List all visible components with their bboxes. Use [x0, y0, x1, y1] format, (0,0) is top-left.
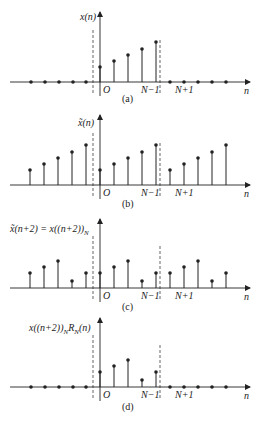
- sample-dot: [98, 271, 102, 275]
- sample-dot: [126, 358, 130, 362]
- sample-dot: [42, 265, 46, 269]
- zero-sample-dot: [168, 80, 172, 84]
- origin-label: O: [103, 187, 110, 198]
- sample-dot: [168, 168, 172, 172]
- stem-group: [28, 259, 228, 288]
- sample-dot: [56, 156, 60, 160]
- zero-sample-dot: [29, 80, 33, 84]
- y-label: x(n): [79, 11, 97, 23]
- zero-sample-dot: [210, 385, 214, 389]
- n-axis-label: n: [244, 85, 249, 96]
- sample-dot: [28, 271, 32, 275]
- zero-sample-dot: [224, 385, 228, 389]
- sequence-figure: x(n) O N−1 N+1 n (a) x̃(n) O N−1 N+1 n (…: [0, 0, 260, 427]
- sample-dot: [224, 271, 228, 275]
- sample-dot: [112, 162, 116, 166]
- sample-dot: [210, 279, 214, 283]
- n-minus-1-label: N−1: [140, 290, 159, 301]
- n-axis-label: n: [244, 188, 249, 199]
- zero-sample-dot: [196, 80, 200, 84]
- origin-label: O: [103, 84, 110, 95]
- sample-dot: [70, 150, 74, 154]
- n-plus-1-label: N+1: [174, 290, 193, 301]
- zero-sample-dot: [57, 385, 61, 389]
- sample-dot: [112, 59, 116, 63]
- n-plus-1-label: N+1: [174, 84, 193, 95]
- zero-sample-dot: [43, 80, 47, 84]
- sample-dot: [126, 53, 130, 57]
- sample-dot: [112, 364, 116, 368]
- sample-dot: [42, 162, 46, 166]
- zero-sample-dot: [29, 385, 33, 389]
- panel-a: x(n) O N−1 N+1 n (a): [10, 11, 250, 105]
- sample-dot: [154, 370, 158, 374]
- panel-b: x̃(n) O N−1 N+1 n (b): [10, 115, 250, 210]
- stem-group: [28, 143, 228, 185]
- zero-sample-dot: [57, 80, 61, 84]
- sample-dot: [56, 259, 60, 263]
- sample-dot: [196, 259, 200, 263]
- zero-sample-dot: [84, 80, 88, 84]
- sample-dot: [210, 150, 214, 154]
- zero-sample-dot: [210, 80, 214, 84]
- sample-dot: [182, 265, 186, 269]
- zero-sample-dot: [71, 385, 75, 389]
- zero-sample-dot: [43, 385, 47, 389]
- sample-dot: [84, 271, 88, 275]
- zero-sample-dot: [196, 385, 200, 389]
- sample-dot: [98, 65, 102, 69]
- y-label: x̃(n+2) = x((n+2))N: [9, 223, 89, 237]
- n-axis-label: n: [244, 291, 249, 302]
- n-minus-1-label: N−1: [140, 187, 159, 198]
- n-plus-1-label: N+1: [174, 389, 193, 400]
- n-minus-1-label: N−1: [140, 389, 159, 400]
- stem-group: [29, 358, 228, 389]
- sample-dot: [140, 378, 144, 382]
- sample-dot: [168, 271, 172, 275]
- sample-dot: [154, 143, 158, 147]
- sample-dot: [224, 143, 228, 147]
- sample-dot: [84, 143, 88, 147]
- sample-dot: [28, 168, 32, 172]
- caption-b: (b): [122, 198, 134, 210]
- sample-dot: [112, 265, 116, 269]
- sample-dot: [98, 168, 102, 172]
- stem-group: [29, 40, 228, 84]
- caption-c: (c): [122, 301, 133, 313]
- caption-a: (a): [122, 93, 133, 105]
- n-plus-1-label: N+1: [174, 187, 193, 198]
- y-label: x((n+2))NRN(n): [28, 322, 91, 336]
- sample-dot: [140, 279, 144, 283]
- sample-dot: [154, 40, 158, 44]
- sample-dot: [126, 259, 130, 263]
- sample-dot: [126, 156, 130, 160]
- sample-dot: [196, 156, 200, 160]
- sample-dot: [140, 47, 144, 51]
- zero-sample-dot: [168, 385, 172, 389]
- sample-dot: [70, 279, 74, 283]
- sample-dot: [154, 271, 158, 275]
- y-label: x̃(n): [77, 117, 95, 129]
- zero-sample-dot: [71, 80, 75, 84]
- sample-dot: [98, 370, 102, 374]
- caption-d: (d): [122, 401, 134, 413]
- sample-dot: [182, 162, 186, 166]
- zero-sample-dot: [224, 80, 228, 84]
- origin-label: O: [103, 389, 110, 400]
- panel-c: x̃(n+2) = x((n+2))N O N−1 N+1 n (c): [9, 219, 250, 313]
- n-axis-label: n: [244, 390, 249, 401]
- zero-sample-dot: [84, 385, 88, 389]
- sample-dot: [140, 150, 144, 154]
- panel-d: x((n+2))NRN(n) O N−1 N+1 n (d): [10, 318, 250, 413]
- origin-label: O: [103, 290, 110, 301]
- n-minus-1-label: N−1: [140, 84, 159, 95]
